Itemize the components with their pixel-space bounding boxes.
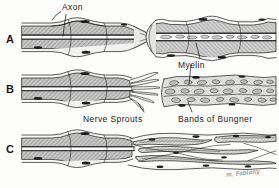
- panel-c-illustration: [22, 130, 276, 170]
- leader-nerve-sprouts: [138, 103, 144, 112]
- label-myelin: Myelin: [178, 61, 205, 70]
- panel-b-illustration: [22, 70, 276, 111]
- figure-illustration: [0, 0, 279, 188]
- label-bands-of-bungner: Bands of Bungner: [178, 115, 252, 124]
- leader-axon-left: [52, 12, 61, 21]
- nerve-regeneration-figure: A B C Axon Myelin Nerve Sprouts Bands of…: [0, 0, 279, 188]
- panel-a-illustration: [22, 16, 276, 61]
- panel-letter-a: A: [6, 34, 14, 45]
- panel-letter-b: B: [6, 84, 14, 95]
- panel-letter-c: C: [6, 144, 14, 155]
- label-axon: Axon: [62, 3, 83, 12]
- label-nerve-sprouts: Nerve Sprouts: [83, 115, 143, 124]
